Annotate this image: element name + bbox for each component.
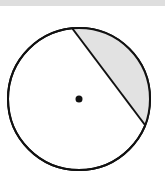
center-point (76, 96, 83, 103)
circle-diagram (0, 0, 165, 176)
